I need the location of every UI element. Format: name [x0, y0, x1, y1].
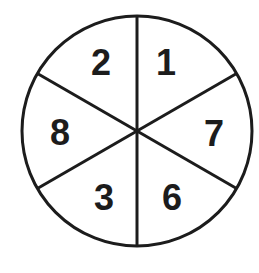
section-label-bottom-left: 3: [94, 177, 114, 218]
section-label-top-right: 1: [156, 42, 176, 83]
section-label-right: 7: [204, 113, 224, 154]
section-label-top-left: 2: [91, 42, 111, 83]
section-label-bottom-right: 6: [162, 177, 182, 218]
spinner-diagram: 1 7 6 3 8 2: [0, 0, 259, 273]
section-label-left: 8: [50, 112, 70, 153]
